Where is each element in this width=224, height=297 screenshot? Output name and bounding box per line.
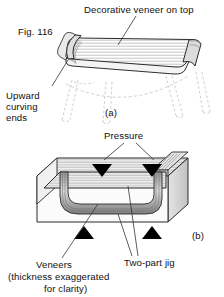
label-veneers-note-2: for clarity) (44, 283, 87, 294)
figure-number-label: Fig. 116 (18, 26, 53, 37)
figure-116-illustration (0, 0, 224, 297)
label-upward-line2: curving (6, 101, 38, 112)
label-upward-line1: Upward (6, 90, 40, 101)
panel-a-caption: (a) (105, 107, 117, 118)
label-veneers: Veneers (36, 259, 72, 270)
label-upward-line3: ends (6, 112, 27, 123)
panel-b-caption: (b) (192, 230, 204, 241)
label-decorative-veneer: Decorative veneer on top (84, 4, 194, 15)
label-two-part-jig: Two-part jig (124, 257, 175, 268)
label-veneers-note-1: (thickness exaggerated (8, 271, 109, 282)
label-pressure: Pressure (104, 130, 143, 141)
